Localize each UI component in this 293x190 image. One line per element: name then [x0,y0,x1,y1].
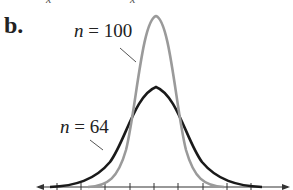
axis-arrow-left-icon [36,184,44,190]
label-n64: n = 64 [60,116,109,138]
leader-line-n100 [120,48,136,62]
leader-line-n64 [90,140,103,150]
label-n100: n = 100 [74,20,132,42]
axis-arrow-right-icon [282,184,290,190]
normal-curves-chart [0,0,293,190]
